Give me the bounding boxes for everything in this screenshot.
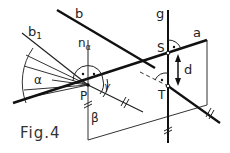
line-parallel-to-g bbox=[88, 85, 143, 112]
angle-alpha-fan bbox=[22, 48, 88, 103]
label-n-alpha: nα bbox=[78, 36, 91, 52]
right-angle-dot bbox=[93, 73, 95, 75]
label-b1: b1 bbox=[28, 24, 42, 41]
label-T: T bbox=[157, 88, 166, 102]
right-angle-dot bbox=[82, 73, 84, 75]
distance-d-arrow bbox=[175, 54, 181, 86]
right-angle-dot bbox=[173, 46, 175, 48]
point-S bbox=[166, 51, 170, 55]
geometry-diagram: b b1 nα α γ P g S a d T β Fig.4 bbox=[0, 0, 230, 153]
dashed-line-to-T bbox=[140, 72, 168, 86]
point-P bbox=[86, 83, 90, 87]
point-T bbox=[166, 84, 170, 88]
figure-caption: Fig.4 bbox=[20, 124, 61, 142]
label-P: P bbox=[80, 89, 87, 103]
label-S: S bbox=[157, 41, 165, 55]
label-gamma: γ bbox=[104, 81, 111, 92]
label-d: d bbox=[184, 62, 192, 77]
line-from-T bbox=[168, 86, 220, 123]
label-a: a bbox=[193, 25, 201, 40]
label-g: g bbox=[156, 6, 164, 21]
parallel-marks bbox=[84, 97, 214, 134]
right-angle-dot bbox=[161, 79, 163, 81]
label-b: b bbox=[75, 6, 83, 21]
label-alpha: α bbox=[34, 73, 42, 87]
line-b bbox=[57, 10, 155, 68]
label-beta: β bbox=[91, 111, 99, 125]
